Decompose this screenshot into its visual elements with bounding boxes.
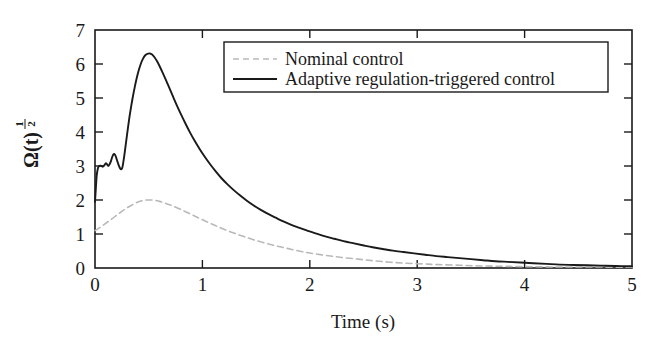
- y-tick-label: 4: [76, 122, 86, 143]
- x-tick-label: 3: [412, 274, 422, 295]
- y-tick-label: 6: [76, 54, 86, 75]
- y-tick-label: 7: [76, 20, 86, 41]
- y-tick-label: 5: [76, 88, 86, 109]
- y-axis-title-base: Ω(t): [20, 132, 43, 168]
- y-tick-label: 0: [76, 258, 86, 279]
- x-tick-label: 0: [90, 274, 100, 295]
- y-axis-exponent-denominator: 2: [25, 121, 37, 127]
- legend-label-nominal-control: Nominal control: [285, 49, 403, 69]
- line-chart: 012345 01234567 Time (s) Ω(t) 1 2 Nomina: [0, 0, 656, 344]
- x-tick-label: 4: [520, 274, 530, 295]
- y-tick-label: 3: [76, 156, 86, 177]
- x-tick-label: 5: [627, 274, 637, 295]
- x-tick-label: 2: [305, 274, 315, 295]
- x-axis-title: Time (s): [331, 311, 395, 333]
- legend: Nominal control Adaptive regulation-trig…: [224, 42, 608, 92]
- x-tick-label: 1: [198, 274, 208, 295]
- y-tick-label: 1: [76, 224, 86, 245]
- y-tick-label: 2: [76, 190, 86, 211]
- chart-figure: 012345 01234567 Time (s) Ω(t) 1 2 Nomina: [0, 0, 656, 344]
- legend-label-adaptive-control: Adaptive regulation-triggered control: [285, 69, 555, 89]
- y-axis-exponent-numerator: 1: [13, 121, 25, 127]
